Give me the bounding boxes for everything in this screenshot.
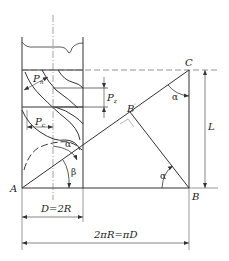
angle-label-alpha-top: α [172,92,178,102]
angle-arc-beta [63,160,69,188]
label-pz: Pz [106,92,118,104]
point-label-b-prime: B′ [126,102,136,114]
cylinder [22,37,189,188]
helix-development-diagram: Pn Pz Pc A B C B′ L D=2R 2πR=πD α α α β [0,0,229,261]
label-lead-l: L [207,121,215,132]
angle-label-alpha-cyl: α [65,139,71,149]
point-label-c: C [185,57,193,68]
pz-guide-lines [53,88,108,107]
label-pc: Pc [34,116,46,128]
angle-label-beta: β [71,167,76,177]
point-label-b: B [191,191,199,202]
cylinder-break-line [22,42,83,53]
point-label-a: A [9,183,17,194]
helix-curves [22,70,83,150]
right-angle-mark [120,119,134,127]
angle-label-alpha-bottom: α [160,171,166,181]
helix-curve-3 [58,70,83,88]
helix-curve-4 [22,110,80,150]
label-circumference: 2πR=πD [93,229,137,240]
label-pn: Pn [32,73,44,85]
label-diameter: D=2R [40,203,72,214]
